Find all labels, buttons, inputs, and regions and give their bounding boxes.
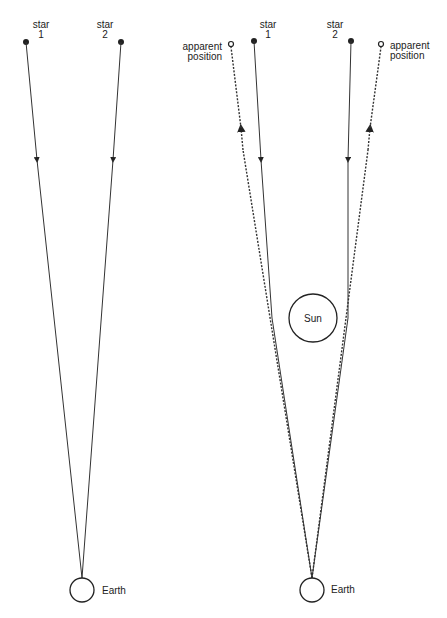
left-earth-icon: [70, 578, 94, 602]
right-ray1: [261, 160, 312, 578]
apparent-left-marker: [229, 42, 234, 47]
sun-label: Sun: [304, 313, 322, 324]
left-ray2: [82, 160, 113, 578]
apparent-ray1-top: [231, 47, 241, 128]
apparent-ray2-arrow: [368, 128, 370, 150]
apparent-right-label-2: position: [390, 50, 424, 61]
left-panel: star 1 star 2 Earth: [23, 19, 126, 602]
right-star1-label-2: 1: [265, 29, 271, 40]
left-earth-label: Earth: [102, 585, 126, 596]
right-panel: star 1 star 2 apparent position apparent…: [183, 19, 430, 602]
left-ray1: [37, 160, 82, 578]
left-ray2-arrow: [113, 42, 121, 160]
apparent-ray2: [312, 150, 368, 578]
apparent-ray2-top: [370, 47, 381, 128]
left-star1-label-2: 1: [38, 29, 44, 40]
right-ray2: [312, 160, 348, 578]
right-ray2-arrow: [348, 41, 351, 160]
right-earth-icon: [300, 578, 324, 602]
apparent-ray1-arrow: [241, 128, 243, 150]
apparent-right-marker: [379, 42, 384, 47]
left-ray1-arrow: [26, 42, 37, 160]
left-star2-label-2: 2: [102, 29, 108, 40]
right-star2-label-2: 2: [332, 29, 338, 40]
light-deflection-diagram: star 1 star 2 Earth star 1 star 2 appare…: [0, 0, 447, 618]
right-ray1-arrow: [254, 41, 261, 160]
right-earth-label: Earth: [331, 584, 355, 595]
apparent-left-label-2: position: [188, 51, 222, 62]
